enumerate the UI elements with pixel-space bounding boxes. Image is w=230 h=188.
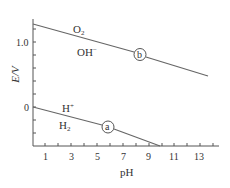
label-h-plus: H+ — [62, 103, 74, 114]
x-tick-3: 3 — [69, 151, 74, 162]
o2-text: O — [73, 23, 81, 35]
x-tick-7: 7 — [121, 151, 126, 162]
h2-text: H — [59, 119, 67, 131]
x-tick-13: 13 — [194, 151, 204, 162]
oh-text: OH — [77, 46, 93, 58]
x-axis-label: pH — [120, 167, 133, 178]
circle-a-label: a — [105, 121, 109, 132]
o2-sub: 2 — [81, 29, 85, 37]
y-axis-label: E/V — [10, 65, 21, 85]
label-h2: H2 — [59, 120, 70, 131]
oh-sup: − — [93, 46, 97, 54]
h-sup: + — [70, 102, 74, 110]
x-tick-1: 1 — [43, 151, 48, 162]
h-text: H — [62, 102, 70, 114]
line-b-2 — [146, 57, 208, 76]
y-tick-1: 1.0 — [16, 37, 29, 48]
x-tick-5: 5 — [95, 151, 100, 162]
x-tick-9: 9 — [146, 151, 151, 162]
label-oh: OH− — [77, 47, 97, 58]
y-tick-0: 0 — [24, 102, 29, 113]
circle-b-label: b — [137, 49, 142, 60]
label-o2: O2 — [73, 24, 84, 35]
line-a-2 — [114, 129, 160, 146]
x-tick-11: 11 — [169, 151, 179, 162]
h2-sub: 2 — [67, 125, 71, 133]
